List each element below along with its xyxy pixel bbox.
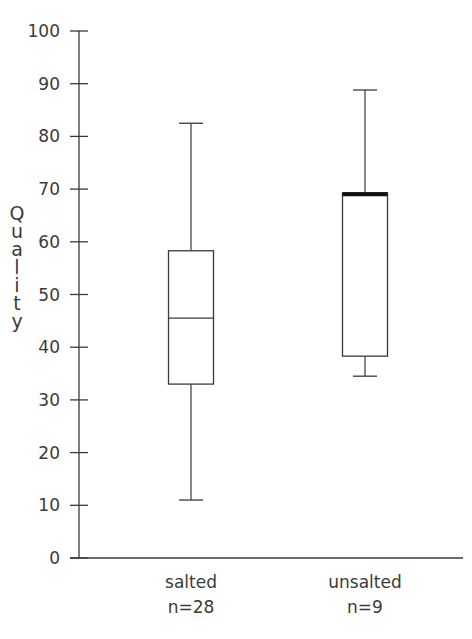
box-unsalted: [343, 90, 388, 376]
category-labels: saltedn=28unsaltedn=9: [165, 572, 402, 617]
y-tick-label: 0: [49, 548, 60, 568]
y-tick-label: 10: [38, 495, 60, 515]
y-tick-label: 50: [38, 285, 60, 305]
category-count: n=28: [168, 597, 215, 617]
y-tick-label: 30: [38, 390, 60, 410]
y-tick-label: 20: [38, 443, 60, 463]
iqr-box: [169, 251, 214, 384]
y-tick-label: 90: [38, 74, 60, 94]
y-tick-label: 80: [38, 126, 60, 146]
y-axis: 0102030405060708090100: [28, 21, 88, 568]
box-plot-chart: 0102030405060708090100 Quality saltedn=2…: [0, 0, 472, 639]
category-count: n=9: [347, 597, 383, 617]
iqr-box: [343, 193, 388, 356]
y-tick-label: 70: [38, 179, 60, 199]
y-tick-label: 60: [38, 232, 60, 252]
y-tick-label: 40: [38, 337, 60, 357]
y-axis-label: Quality: [10, 202, 25, 332]
category-label: unsalted: [328, 572, 401, 592]
box-series: [169, 90, 388, 500]
y-tick-label: 100: [28, 21, 60, 41]
y-label-char: y: [11, 310, 22, 332]
category-label: salted: [165, 572, 217, 592]
box-salted: [169, 123, 214, 500]
